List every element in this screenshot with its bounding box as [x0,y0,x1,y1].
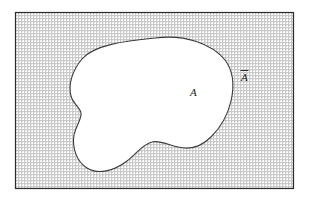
complement-label-group: A [240,71,249,84]
set-A-label-group: A [189,86,197,98]
set-A-label: A [189,86,197,98]
figure-container: A A [0,0,309,203]
set-diagram-svg: A A [0,0,309,203]
complement-label: A [240,71,248,83]
